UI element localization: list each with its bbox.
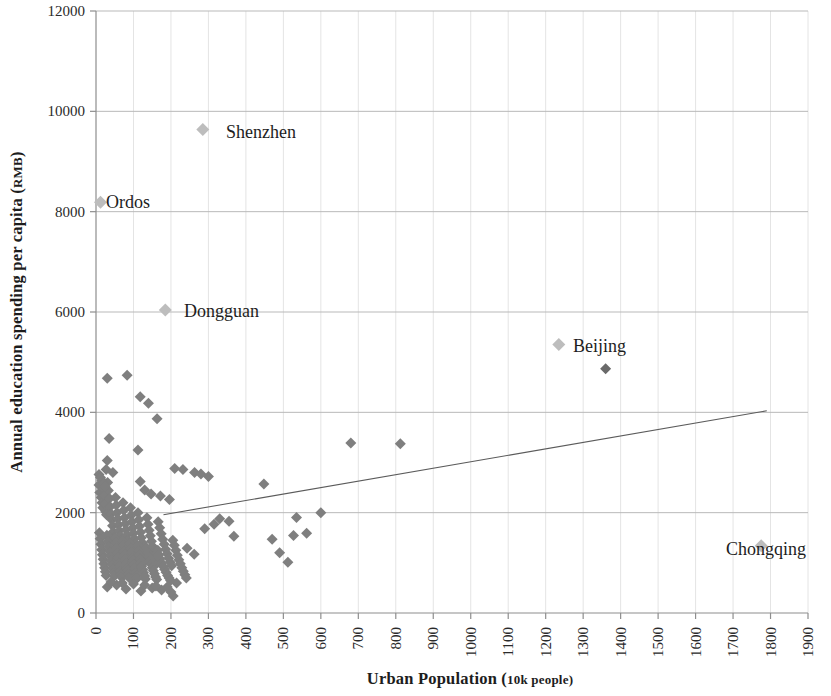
x-tick-label: 100 <box>125 627 141 650</box>
y-tick-label: 10000 <box>48 103 86 119</box>
y-tick-label: 0 <box>78 605 86 621</box>
y-tick-label: 6000 <box>55 304 85 320</box>
point-label-beijing: Beijing <box>573 336 626 356</box>
y-axis-title-main: Annual education spending per capita ( <box>7 188 26 473</box>
x-tick-label: 1600 <box>688 627 704 657</box>
x-tick-label: 1700 <box>725 627 741 657</box>
x-tick-label: 200 <box>163 627 179 650</box>
x-tick-label: 1300 <box>575 627 591 657</box>
x-tick-label: 800 <box>388 627 404 650</box>
x-axis-title-unit: 10k people) <box>507 672 573 687</box>
x-tick-label: 1800 <box>763 627 779 657</box>
point-label-shenzhen: Shenzhen <box>226 122 296 142</box>
x-tick-label: 1000 <box>463 627 479 657</box>
x-tick-label: 900 <box>425 627 441 650</box>
y-axis-title-unit: RMB <box>10 157 25 188</box>
chart-canvas: ShenzhenOrdosDongguanBeijingChongqing 01… <box>0 0 831 696</box>
y-tick-label: 12000 <box>48 3 86 19</box>
x-tick-label: 1100 <box>500 627 516 656</box>
y-axis-title-group: Annual education spending per capita (RM… <box>7 151 26 472</box>
x-tick-label: 1200 <box>538 627 554 657</box>
x-tick-label: 700 <box>350 627 366 650</box>
x-axis-title-main: Urban Population ( <box>367 669 507 688</box>
y-tick-label: 8000 <box>55 204 85 220</box>
y-tick-label: 2000 <box>55 505 85 521</box>
y-tick-label: 4000 <box>55 404 85 420</box>
y-axis-title-tail: ) <box>7 151 26 157</box>
x-tick-label: 300 <box>200 627 216 650</box>
scatter-chart: ShenzhenOrdosDongguanBeijingChongqing 01… <box>0 0 831 696</box>
point-label-chongqing: Chongqing <box>726 539 806 559</box>
x-tick-label: 1500 <box>650 627 666 657</box>
x-tick-label: 0 <box>88 627 104 635</box>
point-label-ordos: Ordos <box>106 192 150 212</box>
x-tick-label: 1400 <box>613 627 629 657</box>
x-tick-label: 400 <box>238 627 254 650</box>
x-tick-label: 1900 <box>800 627 816 657</box>
x-tick-label: 600 <box>313 627 329 650</box>
point-label-dongguan: Dongguan <box>184 301 259 321</box>
y-axis-title: Annual education spending per capita (RM… <box>7 151 26 472</box>
x-axis-title-group: Urban Population (10k people) <box>367 669 573 688</box>
x-tick-label: 500 <box>275 627 291 650</box>
x-axis-title: Urban Population (10k people) <box>367 669 573 688</box>
